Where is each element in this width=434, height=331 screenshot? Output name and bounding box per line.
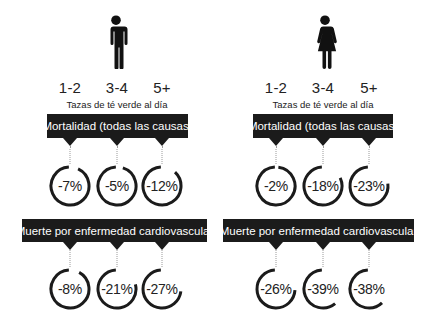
dotted-connector — [369, 250, 370, 267]
reduction-value: -18% — [301, 178, 345, 194]
dotted-connector — [276, 146, 277, 164]
dotted-connector — [323, 146, 324, 164]
banner-pointer — [155, 138, 169, 146]
reduction-value: -38% — [347, 281, 391, 297]
dose-label: 3-4 — [97, 79, 137, 96]
banner-pointer — [362, 242, 376, 250]
dotted-connector — [162, 250, 163, 267]
dotted-connector — [369, 146, 370, 164]
reduction-value: -27% — [140, 281, 184, 297]
dotted-connector — [117, 250, 118, 267]
reduction-value: -23% — [347, 178, 391, 194]
dose-label: 5+ — [349, 79, 389, 96]
reduction-value: -2% — [254, 178, 298, 194]
reduction-value: -5% — [95, 178, 139, 194]
banner-pointer — [269, 138, 283, 146]
banner-pointer — [269, 242, 283, 250]
reduction-value: -12% — [140, 178, 184, 194]
x-axis-label: Tazas de té verde al día — [243, 99, 403, 110]
x-axis-label: Tazas de té verde al día — [37, 99, 197, 110]
reduction-value: -7% — [48, 178, 92, 194]
dotted-connector — [70, 146, 71, 164]
dose-label: 1-2 — [256, 79, 296, 96]
banner-pointer — [316, 138, 330, 146]
banner-pointer — [362, 138, 376, 146]
banner-pointer — [110, 138, 124, 146]
banner-pointer — [63, 138, 77, 146]
section-banner: Muerte por enfermedad cardiovascular — [22, 219, 207, 242]
banner-pointer — [155, 242, 169, 250]
reduction-value: -26% — [254, 281, 298, 297]
dotted-connector — [162, 146, 163, 164]
dose-label: 3-4 — [303, 79, 343, 96]
section-banner: Mortalidad (todas las causas) — [47, 114, 188, 138]
dotted-connector — [117, 146, 118, 164]
banner-pointer — [63, 242, 77, 250]
man-icon — [104, 15, 128, 69]
banner-pointer — [316, 242, 330, 250]
woman-icon — [313, 15, 337, 69]
dose-label: 5+ — [142, 79, 182, 96]
reduction-value: -21% — [95, 281, 139, 297]
banner-pointer — [110, 242, 124, 250]
reduction-value: -39% — [301, 281, 345, 297]
section-banner: Mortalidad (todas las causas) — [253, 114, 393, 138]
dotted-connector — [276, 250, 277, 267]
section-banner: Muerte por enfermedad cardiovascular — [223, 219, 414, 242]
dotted-connector — [70, 250, 71, 267]
dotted-connector — [323, 250, 324, 267]
dose-label: 1-2 — [50, 79, 90, 96]
reduction-value: -8% — [48, 281, 92, 297]
